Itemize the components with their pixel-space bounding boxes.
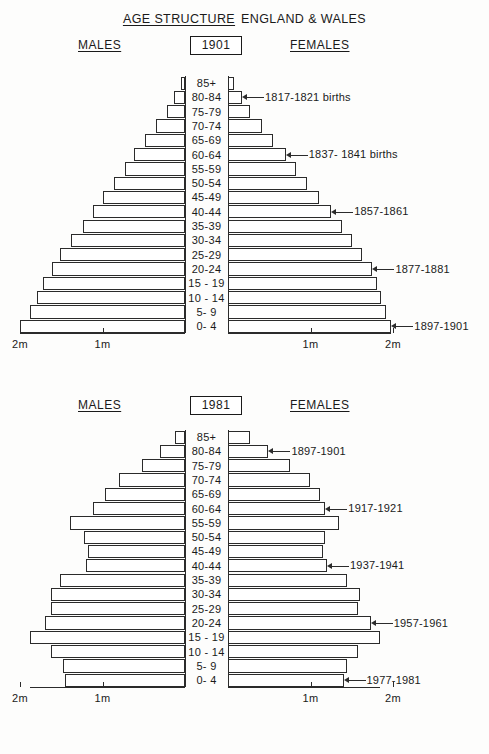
bar-female-65-69 <box>228 134 273 147</box>
bar-female-5-9 <box>228 305 386 318</box>
title-age-structure: AGE STRUCTURE <box>123 12 235 26</box>
bar-male-70-74 <box>156 119 185 132</box>
page-title: AGE STRUCTUREENGLAND & WALES <box>0 12 489 26</box>
age-group-label: 45-49 <box>185 190 228 204</box>
annotation-label: 1957-1961 <box>394 618 448 629</box>
bar-male-20-24 <box>45 616 185 629</box>
age-group-label: 0- 4 <box>185 319 228 333</box>
bar-male-60-64 <box>134 148 185 161</box>
annotation-label: 1977-1981 <box>367 675 421 686</box>
age-group-label: 40-44 <box>185 559 228 573</box>
tick-male-1m-label: 1m <box>95 692 111 704</box>
label-females-1901: FEMALES <box>290 38 350 52</box>
bar-male-40-44 <box>93 205 185 218</box>
age-group-label: 85+ <box>185 76 228 90</box>
age-group-label: 25-29 <box>185 602 228 616</box>
age-group-label: 25-29 <box>185 248 228 262</box>
bar-male-35-39 <box>60 574 185 587</box>
bar-male-80-84 <box>160 445 185 458</box>
annotation-arrow-shaft <box>330 509 347 510</box>
age-group-label: 20-24 <box>185 616 228 630</box>
chart-header-1901: MALES 1901 FEMALES <box>0 36 489 58</box>
age-group-label: 80-84 <box>185 444 228 458</box>
annotation-arrow-shaft <box>291 155 308 156</box>
bar-female-60-64 <box>228 148 286 161</box>
age-group-label: 55-59 <box>185 516 228 530</box>
annotation-arrow-shaft <box>376 623 393 624</box>
age-group-label: 10 - 14 <box>185 291 228 305</box>
bar-female-55-59 <box>228 516 339 529</box>
bar-male-60-64 <box>93 502 185 515</box>
tick-male-2m-label: 2m <box>12 338 28 350</box>
title-region: ENGLAND & WALES <box>235 12 366 26</box>
male-axis-rule <box>185 430 186 687</box>
bar-male-55-59 <box>125 162 185 175</box>
tick-female-2m-label: 2m <box>385 692 401 704</box>
annotation-arrow-shaft <box>377 269 394 270</box>
age-group-label: 70-74 <box>185 473 228 487</box>
tick-female-2m-label: 2m <box>385 338 401 350</box>
annotation-label: 1897-1901 <box>414 321 468 332</box>
bar-male-65-69 <box>105 488 185 501</box>
bar-male-45-49 <box>88 545 185 558</box>
tick-male-1m <box>103 682 104 687</box>
bar-male-50-54 <box>84 531 185 544</box>
bar-female-80-84 <box>228 445 268 458</box>
bar-female-75-79 <box>228 105 250 118</box>
age-group-label: 30-34 <box>185 587 228 601</box>
bar-male-65-69 <box>145 134 185 147</box>
bar-female-80-84 <box>228 91 242 104</box>
bar-female-35-39 <box>228 220 342 233</box>
bar-male-5-9 <box>63 659 185 672</box>
bar-male-10-14 <box>37 291 186 304</box>
tick-male-1m-label: 1m <box>95 338 111 350</box>
bar-male-50-54 <box>114 177 185 190</box>
age-group-label: 70-74 <box>185 119 228 133</box>
age-group-label: 55-59 <box>185 162 228 176</box>
age-group-label: 75-79 <box>185 105 228 119</box>
age-group-label: 40-44 <box>185 205 228 219</box>
male-axis-rule <box>185 76 186 333</box>
axis-line-female <box>228 333 391 334</box>
age-group-label: 5- 9 <box>185 659 228 673</box>
age-group-label: 5- 9 <box>185 305 228 319</box>
bar-female-85+ <box>228 431 250 444</box>
age-group-label: 0- 4 <box>185 673 228 687</box>
tick-female-1m-label: 1m <box>303 692 319 704</box>
bar-male-0-4 <box>65 674 185 687</box>
annotation-arrow-shaft <box>336 212 353 213</box>
bar-female-45-49 <box>228 191 319 204</box>
bar-male-85+ <box>175 431 185 444</box>
bar-female-25-29 <box>228 248 362 261</box>
age-group-label: 65-69 <box>185 133 228 147</box>
tick-male-2m <box>20 328 21 333</box>
age-group-label: 85+ <box>185 430 228 444</box>
age-group-label: 15 - 19 <box>185 276 228 290</box>
annotation-label: 1937-1941 <box>350 560 404 571</box>
bar-male-25-29 <box>60 248 185 261</box>
axis-line-female <box>228 687 380 688</box>
bar-female-20-24 <box>228 262 372 275</box>
bar-male-15-19 <box>43 277 185 290</box>
age-group-label: 15 - 19 <box>185 630 228 644</box>
bar-male-30-34 <box>71 234 185 247</box>
annotation-arrow-shaft <box>332 566 349 567</box>
bar-male-10-14 <box>51 645 185 658</box>
annotation-label: 1837- 1841 births <box>309 149 398 160</box>
female-axis-rule <box>228 430 229 687</box>
age-group-label: 50-54 <box>185 530 228 544</box>
bar-female-30-34 <box>228 588 360 601</box>
female-axis-rule <box>228 76 229 333</box>
annotation-arrow-shaft <box>349 680 366 681</box>
bar-female-20-24 <box>228 616 371 629</box>
tick-female-1m <box>311 328 312 333</box>
age-group-label: 35-39 <box>185 219 228 233</box>
bar-male-20-24 <box>52 262 185 275</box>
bar-male-5-9 <box>30 305 185 318</box>
bar-male-75-79 <box>167 105 185 118</box>
tick-male-2m-label: 2m <box>12 692 28 704</box>
bar-male-75-79 <box>142 459 185 472</box>
tick-female-1m-label: 1m <box>303 338 319 350</box>
age-group-label: 60-64 <box>185 148 228 162</box>
bar-female-25-29 <box>228 602 358 615</box>
